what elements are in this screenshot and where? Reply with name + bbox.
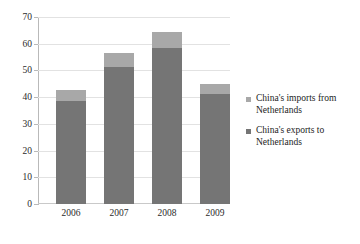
y-axis-tick	[34, 204, 38, 205]
bar-segment-exports[interactable]	[56, 101, 86, 204]
chart-container: 70 60 50 40 30 20 10 0	[0, 0, 360, 244]
bar-segment-exports[interactable]	[152, 48, 182, 205]
bar-segment-imports[interactable]	[104, 53, 134, 67]
y-axis-tick-label: 70	[2, 13, 32, 23]
y-axis-tick-label: 20	[2, 147, 32, 157]
y-axis-tick-label: 60	[2, 40, 32, 50]
plot-area	[38, 17, 230, 204]
bar-segment-imports[interactable]	[200, 84, 230, 94]
legend-swatch-icon	[246, 97, 251, 102]
y-axis-tick-label: 10	[2, 173, 32, 183]
legend-item-imports[interactable]: China's imports from Netherlands	[246, 93, 358, 116]
bar-segment-imports[interactable]	[56, 90, 86, 101]
legend-label-exports: China's exports to Netherlands	[256, 125, 356, 148]
legend-swatch-icon	[246, 129, 251, 134]
legend-item-exports[interactable]: China's exports to Netherlands	[246, 125, 358, 148]
y-axis-tick-label: 50	[2, 66, 32, 76]
y-axis-labels: 70 60 50 40 30 20 10 0	[0, 0, 32, 244]
chart-legend: China's imports from Netherlands China's…	[246, 93, 358, 157]
bar-segment-exports[interactable]	[200, 94, 230, 204]
bar-segment-imports[interactable]	[152, 32, 182, 48]
y-axis-tick-label: 40	[2, 93, 32, 103]
gridline	[38, 70, 230, 71]
bar-segment-exports[interactable]	[104, 67, 134, 204]
legend-label-imports: China's imports from Netherlands	[256, 93, 356, 116]
y-axis-tick-label: 30	[2, 120, 32, 130]
gridline	[38, 44, 230, 45]
gridline	[38, 17, 230, 18]
x-axis-label-2009: 2009	[185, 209, 245, 219]
y-axis-tick-label: 0	[2, 200, 32, 210]
